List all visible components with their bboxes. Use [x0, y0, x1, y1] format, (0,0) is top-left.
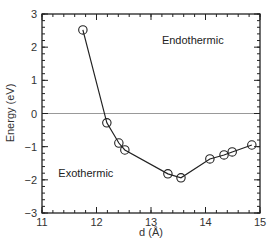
y-tick-label: −3 [24, 207, 37, 219]
y-tick-label: 3 [31, 8, 37, 20]
x-tick-label: 11 [36, 216, 47, 228]
y-tick-label: 1 [31, 74, 37, 86]
x-axis-label: d (Å) [139, 226, 163, 238]
annotations: EndothermicExothermic [58, 34, 224, 179]
y-tick-label: 0 [31, 108, 37, 120]
x-tick-label: 15 [254, 216, 266, 228]
y-tick-label: −2 [24, 174, 37, 186]
data-series [79, 26, 256, 182]
series-line [83, 30, 252, 178]
endothermic-label: Endothermic [162, 34, 224, 46]
x-tick-label: 12 [90, 216, 102, 228]
y-tick-labels: −3−2−10123 [24, 8, 37, 219]
y-axis-label: Energy (eV) [4, 84, 16, 143]
y-tick-label: −1 [24, 141, 37, 153]
x-tick-label: 14 [199, 216, 211, 228]
energy-vs-distance-chart: 1112131415 −3−2−10123 EndothermicExother… [0, 0, 277, 249]
y-tick-label: 2 [31, 41, 37, 53]
exothermic-label: Exothermic [58, 167, 114, 179]
